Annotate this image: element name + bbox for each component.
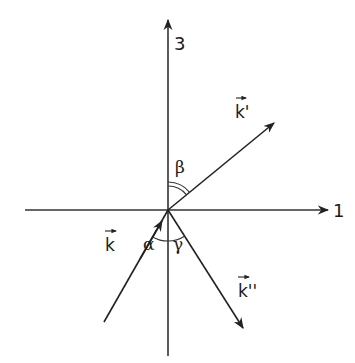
angle-gamma-label: γ [173, 234, 183, 254]
angle-beta-arc-outer [168, 182, 190, 192]
angle-alpha-arc [153, 237, 168, 241]
transmitted-vector-label: k'' [238, 277, 257, 301]
reflected-vector-label: k' [235, 98, 250, 122]
wave-vector-diagram: 3 1 k' k k'' β α γ [0, 0, 355, 363]
angle-beta-label: β [175, 157, 185, 177]
svg-text:k'': k'' [238, 281, 257, 301]
incident-vector-label: k [105, 231, 116, 255]
axis-3-label: 3 [174, 33, 185, 54]
svg-text:k': k' [235, 102, 250, 122]
transmitted-vector-arrow [168, 210, 243, 328]
axis-1-label: 1 [333, 200, 344, 221]
angle-alpha-label: α [143, 234, 155, 254]
svg-text:k: k [105, 235, 115, 255]
